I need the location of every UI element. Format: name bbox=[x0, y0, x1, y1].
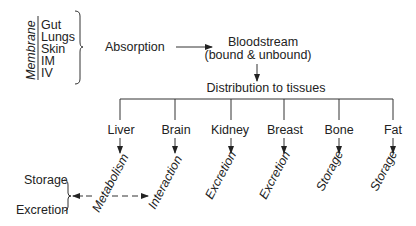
bloodstream-sublabel: (bound & unbound) bbox=[204, 48, 311, 62]
tissue-fate: Excretion bbox=[256, 149, 293, 202]
tissue-bone: Bone Storage bbox=[313, 99, 353, 193]
pharmacokinetics-diagram: Membrane Gut Lungs Skin IM IV Absorption… bbox=[0, 0, 416, 226]
tissue-label: Bone bbox=[324, 123, 353, 137]
tissue-label: Fat bbox=[384, 123, 403, 137]
bloodstream-label: Bloodstream bbox=[228, 35, 298, 49]
tissue-liver: Liver Metabolism bbox=[89, 99, 134, 214]
tissue-breast: Breast Excretion bbox=[256, 99, 303, 201]
tissue-fate: Storage bbox=[313, 148, 346, 193]
tissue-label: Kidney bbox=[211, 123, 250, 137]
routes-brace bbox=[75, 11, 83, 84]
tissue-label: Liver bbox=[107, 123, 134, 137]
tissue-brain: Brain Interaction bbox=[145, 99, 190, 211]
tissue-fate: Excretion bbox=[202, 149, 239, 202]
tissue-label: Breast bbox=[267, 123, 304, 137]
outcome-storage: Storage bbox=[24, 173, 68, 187]
tissue-label: Brain bbox=[161, 123, 190, 137]
tissue-fate: Metabolism bbox=[89, 151, 131, 214]
tissue-kidney: Kidney Excretion bbox=[202, 99, 250, 201]
membrane-label: Membrane bbox=[24, 20, 38, 80]
tissue-fate: Storage bbox=[367, 148, 400, 193]
tissue-fat: Fat Storage bbox=[367, 99, 402, 193]
route-iv: IV bbox=[41, 66, 53, 80]
outcome-excretion: Excretion bbox=[16, 203, 68, 217]
distribution-label: Distribution to tissues bbox=[207, 81, 326, 95]
absorption-label: Absorption bbox=[105, 40, 165, 54]
tissue-fate: Interaction bbox=[145, 153, 185, 211]
